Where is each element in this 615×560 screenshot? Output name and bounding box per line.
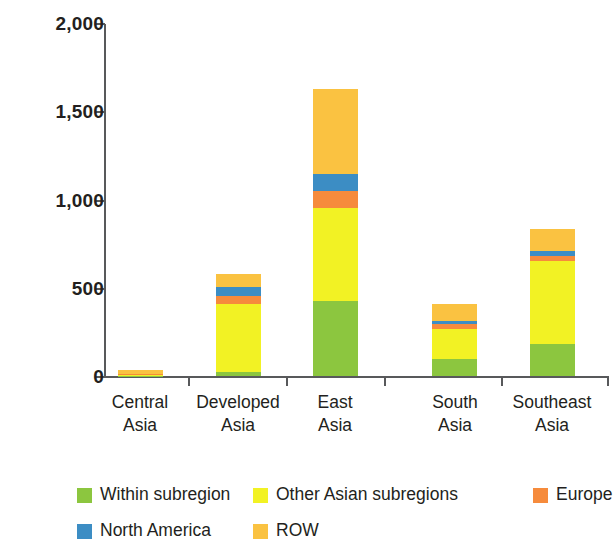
legend-swatch-icon [253,524,268,539]
bar-segment-other-asian-subregions [432,329,477,359]
bar-segment-europe [313,191,358,208]
x-tick-mark [188,378,190,386]
y-tick-label: 1,000 [20,191,104,210]
x-tick-mark [286,378,288,386]
bar-southeast-asia [530,229,575,376]
legend-swatch-icon [533,488,548,503]
category-label-line: Asia [492,414,612,437]
y-tick-label: 2,000 [20,14,104,33]
stacked-bar-chart: 05001,0001,5002,000 CentralAsiaDeveloped… [0,0,615,560]
bar-segment-within-subregion [432,359,477,376]
legend-row-bottom: North AmericaROW [0,518,615,548]
bar-south-asia [432,304,477,376]
legend-label: ROW [276,522,319,540]
plot-area: 05001,0001,5002,000 [0,0,615,395]
category-label-line: Southeast [492,391,612,414]
category-label-line: East [275,391,395,414]
y-tick-label: 0 [20,367,104,386]
bar-segment-europe [216,296,261,304]
bar-segment-row [313,89,358,174]
legend-item-row[interactable]: ROW [253,518,319,544]
bar-segment-within-subregion [216,372,261,376]
x-tick-mark [607,378,609,386]
x-axis-line [104,376,609,378]
bar-segment-row [216,274,261,287]
legend-label: Within subregion [100,486,230,504]
category-label-east-asia: EastAsia [275,391,395,437]
chart-legend: Within subregionOther Asian subregionsEu… [0,482,615,560]
legend-item-europe[interactable]: Europe [533,482,612,508]
legend-item-north-america[interactable]: North America [77,518,211,544]
legend-swatch-icon [253,488,268,503]
bar-segment-other-asian-subregions [530,261,575,344]
legend-label: Other Asian subregions [276,486,458,504]
legend-item-other-asian-subregions[interactable]: Other Asian subregions [253,482,458,508]
legend-label: Europe [556,486,612,504]
bar-segment-within-subregion [530,344,575,376]
legend-swatch-icon [77,524,92,539]
legend-label: North America [100,522,211,540]
bar-central-asia [118,370,163,376]
bar-developed-asia [216,274,261,376]
category-label-line: Asia [275,414,395,437]
bar-segment-other-asian-subregions [216,304,261,372]
bar-segment-other-asian-subregions [313,208,358,301]
bar-segment-row [530,229,575,251]
y-tick-label: 500 [20,279,104,298]
category-label-southeast-asia: SoutheastAsia [492,391,612,437]
legend-item-within-subregion[interactable]: Within subregion [77,482,230,508]
bar-segment-north-america [216,287,261,296]
x-tick-mark [501,378,503,386]
bar-segment-row [432,304,477,321]
x-tick-mark [384,378,386,386]
bar-segment-north-america [313,174,358,191]
bar-east-asia [313,89,358,376]
legend-row-top: Within subregionOther Asian subregionsEu… [0,482,615,512]
legend-swatch-icon [77,488,92,503]
y-tick-label: 1,500 [20,102,104,121]
bar-segment-within-subregion [313,301,358,376]
